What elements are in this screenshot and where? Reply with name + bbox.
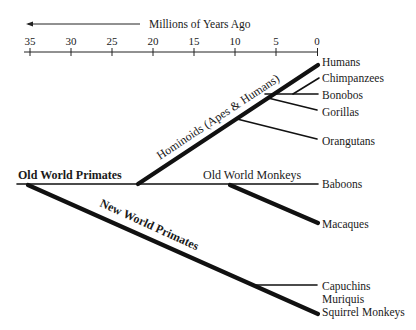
taxon-chimpanzees: Chimpanzees — [322, 72, 384, 85]
tick-label-30: 30 — [66, 35, 78, 47]
taxon-muriquis: Muriquis — [322, 293, 365, 306]
primate-phylogeny-diagram: Millions of Years Ago 35 30 25 20 15 10 … — [0, 0, 416, 330]
group-label-old-world-monkeys: Old World Monkeys — [203, 168, 301, 182]
tick-label-15: 15 — [189, 35, 201, 47]
taxon-bonobos: Bonobos — [322, 89, 363, 101]
group-label-old-world-primates: Old World Primates — [18, 168, 122, 182]
taxon-capuchins: Capuchins — [322, 280, 371, 293]
time-axis: Millions of Years Ago 35 30 25 20 15 10 … — [24, 18, 320, 56]
taxon-gorillas: Gorillas — [322, 106, 360, 118]
branch-hominoids-humans — [138, 65, 318, 184]
tick-label-20: 20 — [148, 35, 160, 47]
axis-title: Millions of Years Ago — [149, 18, 251, 31]
taxon-macaques: Macaques — [322, 218, 369, 231]
tick-label-25: 25 — [107, 35, 119, 47]
taxon-squirrel-monkeys: Squirrel Monkeys — [322, 306, 405, 319]
taxon-baboons: Baboons — [322, 178, 363, 190]
branch-gorillas — [268, 98, 317, 110]
tick-label-10: 10 — [230, 35, 242, 47]
tree-branches — [17, 65, 319, 314]
taxon-orangutans: Orangutans — [322, 135, 376, 148]
left-arrow-icon — [26, 22, 33, 27]
taxon-humans: Humans — [322, 56, 361, 68]
branch-macaques — [230, 185, 318, 223]
tick-label-5: 5 — [273, 35, 279, 47]
branch-orangutans — [237, 119, 317, 139]
group-label-hominoids: Hominoids (Apes & Humans) — [154, 71, 282, 162]
taxa-labels: Humans Chimpanzees Bonobos Gorillas Oran… — [322, 56, 405, 319]
tick-label-35: 35 — [25, 35, 37, 47]
tick-label-0: 0 — [314, 35, 320, 47]
